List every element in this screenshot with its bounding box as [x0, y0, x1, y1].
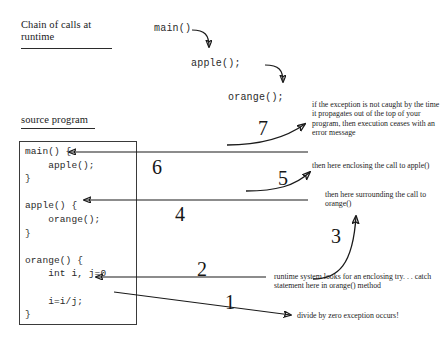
- chain-frame-orange: orange();: [228, 92, 284, 103]
- chain-of-calls-title-underline: [21, 48, 112, 49]
- chain-arrow-main-to-apple: [192, 30, 209, 47]
- step-numeral-6: 6: [152, 157, 162, 177]
- step-arrow-1: [114, 292, 291, 315]
- step-numeral-4: 4: [175, 204, 185, 224]
- step-numeral-3: 3: [331, 226, 341, 246]
- step-note-5: then here enclosing the call to apple(): [312, 161, 432, 170]
- step-note-2: runtime system looks for an enclosing tr…: [274, 272, 434, 291]
- step-note-1: divide by zero exception occurs!: [297, 311, 437, 320]
- chain-frame-apple: apple();: [191, 58, 241, 69]
- chain-of-calls-title: Chain of calls at runtime: [21, 19, 125, 43]
- step-numeral-2: 2: [197, 259, 207, 279]
- step-note-3: then here surrounding the call to orange…: [325, 190, 437, 209]
- step-numeral-1: 1: [225, 292, 235, 312]
- diagram-canvas: Chain of calls at runtime source program…: [0, 0, 443, 343]
- source-program-code: main() { apple(); } apple() { orange(); …: [25, 145, 106, 322]
- step-numeral-5: 5: [278, 168, 288, 188]
- source-program-title-underline: [21, 128, 95, 129]
- source-program-title: source program: [21, 114, 125, 126]
- chain-arrow-apple-to-orange: [265, 65, 283, 82]
- chain-frame-main: main(): [154, 23, 191, 34]
- step-numeral-7: 7: [258, 118, 268, 138]
- step-note-7: if the exception is not caught by the ti…: [312, 100, 440, 137]
